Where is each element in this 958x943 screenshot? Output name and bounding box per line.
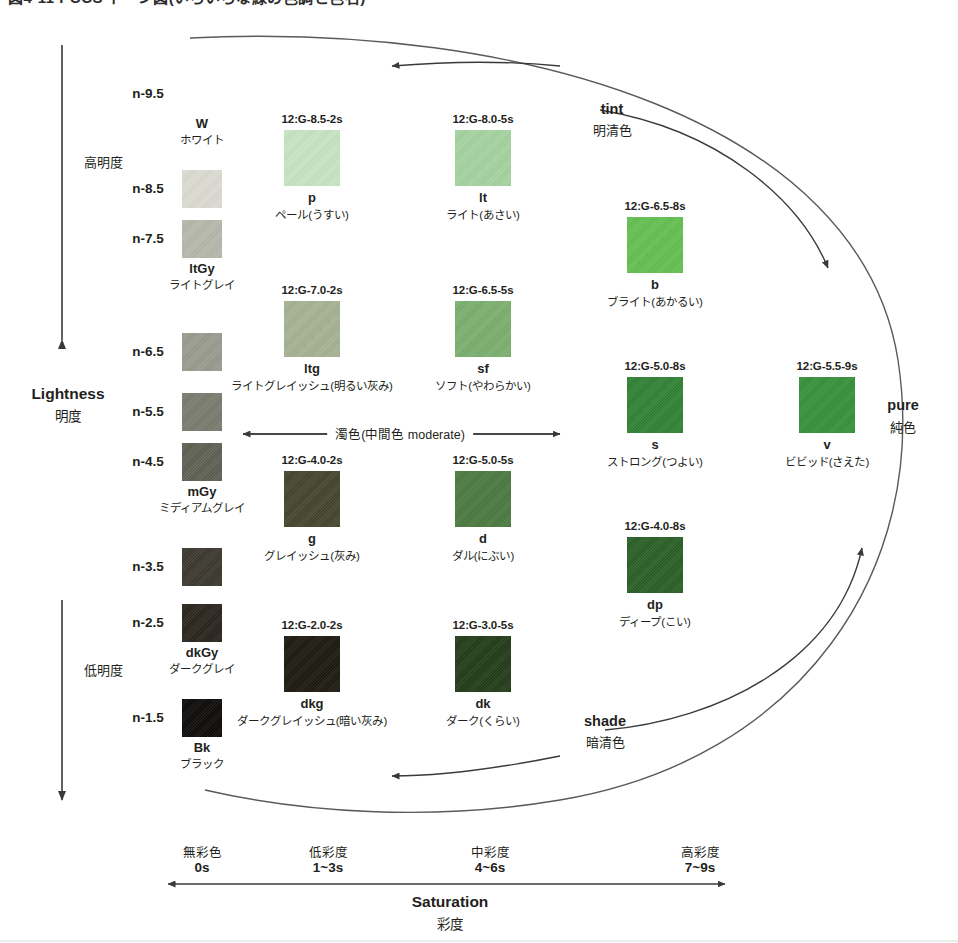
gray-swatch-fill [182,220,222,258]
gray-swatch-fill [182,170,222,208]
gray-swatch-dkGy [182,604,222,642]
gray-swatch-4 [182,393,222,431]
tone-swatch-fill-dk [455,636,511,692]
gray-jp-Bk: ブラック [180,755,224,771]
tone-swatch-dk [455,636,511,692]
lightness-tick-n-3.5: n-3.5 [132,559,164,574]
gray-swatch-fill [182,604,222,642]
tone-abbr-b: b [651,277,659,292]
tone-code-sf: 12:G-6.5-5s [453,284,514,296]
lightness-tick-n-8.5: n-8.5 [132,181,164,196]
tone-swatch-dp [627,537,683,593]
low-lightness-label: 低明度 [84,660,123,679]
tone-code-dkg: 12:G-2.0-2s [282,619,343,631]
tone-abbr-lt: lt [479,190,487,205]
tone-swatch-fill-g [284,471,340,527]
gray-swatch-1 [182,170,222,208]
tone-jp-v: ビビッド(さえた) [785,453,870,469]
saturation-tick-range-1: 1~3s [313,860,343,875]
lightness-tick-n-6.5: n-6.5 [132,344,164,359]
gray-swatch-fill [182,443,222,481]
gray-swatch-mGy [182,443,222,481]
saturation-tick-range-3: 7~9s [685,860,715,875]
tone-swatch-fill-p [284,130,340,186]
tone-abbr-d: d [479,531,487,546]
tone-jp-dkg: ダークグレイッシュ(暗い灰み) [237,712,388,728]
gray-swatch-ltGy [182,220,222,258]
tone-swatch-sf [455,301,511,357]
gray-abbr-Bk: Bk [194,740,211,755]
moderate-band-label: 濁色(中間色 moderate) [327,424,473,443]
lightness-tick-n-1.5: n-1.5 [132,710,164,725]
tone-code-ltg: 12:G-7.0-2s [282,284,343,296]
saturation-tick-jp-1: 低彩度 [309,842,348,861]
tone-jp-g: グレイッシュ(灰み) [264,547,360,563]
gray-swatch-fill [182,699,222,737]
tone-swatch-lt [455,130,511,186]
saturation-tick-jp-2: 中彩度 [471,842,510,861]
high-lightness-label: 高明度 [84,152,123,171]
saturation-tick-range-2: 4~6s [475,860,505,875]
saturation-tick-jp-3: 高彩度 [681,842,720,861]
tone-swatch-fill-b [627,217,683,273]
tone-abbr-p: p [308,190,316,205]
lightness-tick-n-5.5: n-5.5 [132,404,164,419]
tone-jp-ltg: ライトグレイッシュ(明るい灰み) [231,377,393,393]
tone-swatch-fill-dp [627,537,683,593]
gray-abbr-mGy: mGy [188,484,217,499]
tone-code-d: 12:G-5.0-5s [453,454,514,466]
gray-abbr-W: W [196,116,208,131]
lightness-tick-n-9.5: n-9.5 [132,86,164,101]
tone-diagram: 図4-11 PCCS トーン図(いろいろな緑の色調と色名) [0,0,958,943]
zone-shade-jp: 暗清色 [586,732,625,751]
gray-abbr-dkGy: dkGy [186,645,219,660]
saturation-tick-range-0: 0s [194,860,209,875]
tone-swatch-p [284,130,340,186]
tone-abbr-s: s [651,437,658,452]
tone-abbr-dkg: dkg [300,696,323,711]
tone-code-dk: 12:G-3.0-5s [453,619,514,631]
tone-swatch-fill-lt [455,130,511,186]
tone-swatch-fill-s [627,377,683,433]
tone-jp-d: ダル(にぶい) [452,547,515,563]
tone-swatch-g [284,471,340,527]
saturation-axis-title-jp: 彩度 [437,913,463,933]
tone-jp-p: ペール(うすい) [275,206,349,222]
tone-jp-dp: ディープ(こい) [619,613,691,629]
tone-abbr-ltg: ltg [304,361,320,376]
zone-shade-en: shade [584,713,626,729]
tone-code-v: 12:G-5.5-9s [797,360,858,372]
tone-swatch-fill-d [455,471,511,527]
tone-jp-sf: ソフト(やわらかい) [435,377,531,393]
zone-tint-en: tint [601,101,624,117]
gray-swatch-fill [182,333,222,371]
gray-jp-ltGy: ライトグレイ [169,276,235,292]
tone-swatch-dkg [284,636,340,692]
lightness-axis-title-en: Lightness [31,385,104,403]
tone-jp-lt: ライト(あさい) [446,206,520,222]
gray-jp-W: ホワイト [180,131,224,147]
tone-abbr-v: v [823,437,830,452]
tone-swatch-v [799,377,855,433]
tone-swatch-fill-sf [455,301,511,357]
gray-swatch-fill [182,548,222,586]
tone-swatch-fill-v [799,377,855,433]
lightness-tick-n-7.5: n-7.5 [132,231,164,246]
tone-code-s: 12:G-5.0-8s [625,360,686,372]
lightness-tick-n-2.5: n-2.5 [132,615,164,630]
figure-title-text: 図4-11 PCCS トーン図(いろいろな緑の色調と色名) [8,0,528,8]
tone-swatch-fill-dkg [284,636,340,692]
tone-code-g: 12:G-4.0-2s [282,454,343,466]
tone-code-p: 12:G-8.5-2s [282,113,343,125]
zone-pure-en: pure [887,397,918,413]
gray-jp-mGy: ミディアムグレイ [159,499,245,515]
tone-jp-b: ブライト(あかるい) [607,293,703,309]
zone-tint-jp: 明清色 [593,120,632,139]
tone-code-b: 12:G-6.5-8s [625,200,686,212]
gray-swatch-Bk [182,699,222,737]
saturation-axis-title-en: Saturation [412,893,489,911]
figure-title: 図4-11 PCCS トーン図(いろいろな緑の色調と色名) [8,0,528,8]
tone-abbr-dp: dp [647,597,663,612]
gray-abbr-ltGy: ltGy [189,261,214,276]
gray-swatch-6 [182,548,222,586]
